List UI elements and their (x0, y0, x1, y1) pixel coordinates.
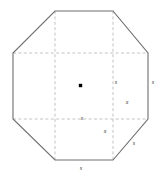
label-s-right-edge: s (152, 79, 154, 85)
center-dot-marker (79, 84, 82, 87)
label-x-bottom-corner: x (104, 128, 107, 134)
label-s-bottom-edge: s (80, 165, 82, 171)
label-x-right-corner: x (126, 99, 129, 105)
octagon-diagram-canvas (0, 0, 163, 174)
label-s-bottom-inner: s (81, 115, 83, 121)
octagon-geometry-figure: s s x s x s s (0, 0, 163, 174)
label-s-right-inner: s (115, 79, 117, 85)
label-s-diagonal: s (133, 140, 135, 146)
